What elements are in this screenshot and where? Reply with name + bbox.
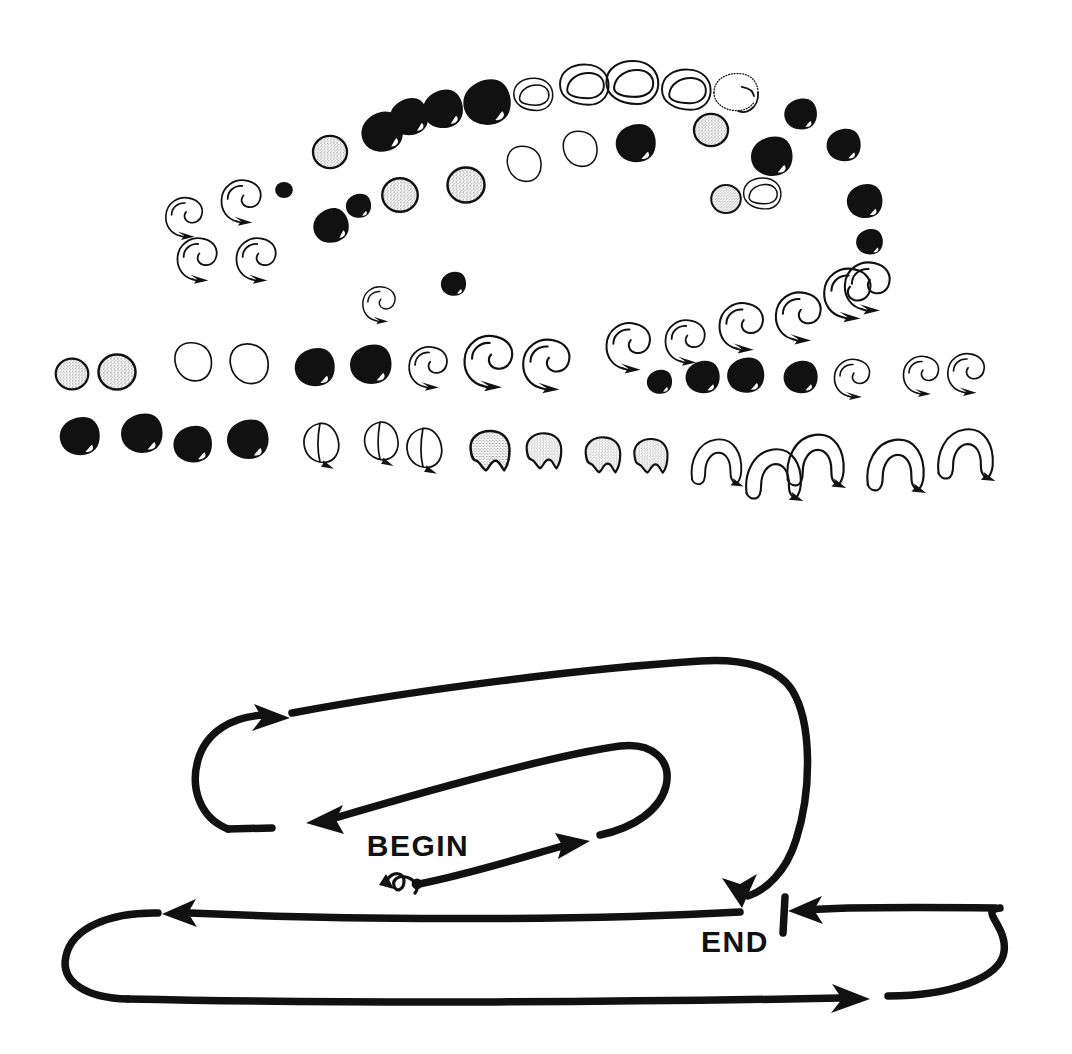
- glyph-solid: [346, 194, 371, 218]
- glyph-stipple-lobed: [586, 437, 621, 472]
- glyph-stipple: [711, 185, 741, 213]
- end-label: END: [701, 925, 769, 958]
- glyph-stipple: [448, 168, 485, 203]
- glyph-teardrop: [365, 422, 398, 466]
- glyph-solid: [616, 124, 656, 162]
- glyph-solid: [295, 348, 335, 386]
- glyph-row-3: [363, 272, 466, 324]
- glyph-solid: [847, 184, 883, 218]
- glyph-hook: [363, 287, 395, 324]
- glyph-arch: [938, 429, 995, 481]
- path-left-hairpin: [195, 704, 290, 829]
- glyph-hook: [166, 198, 202, 240]
- glyph-stipple-lobed: [527, 433, 562, 468]
- path-bottom-upper-run: [788, 896, 995, 924]
- glyph-solid: [461, 78, 512, 127]
- glyph-solid: [227, 419, 269, 459]
- path-bottom-long-left: [162, 899, 740, 927]
- glyph-solid: [751, 136, 793, 176]
- end-tick-mark: [783, 897, 785, 933]
- glyph-outline: [563, 131, 597, 166]
- glyph-row-5: [647, 354, 984, 400]
- glyph-teardrop: [304, 423, 339, 468]
- plate-canvas: BEGIN END: [0, 0, 1072, 1054]
- glyph-hook: [221, 180, 260, 226]
- glyph-hook: [834, 359, 869, 400]
- glyph-field: [56, 61, 996, 501]
- glyph-outline: [507, 146, 541, 181]
- glyph-solid: [121, 413, 163, 453]
- glyph-solid: [309, 205, 352, 247]
- glyph-solid: [784, 98, 817, 129]
- glyph-hook: [465, 336, 513, 391]
- glyph-solid: [784, 361, 818, 394]
- glyph-hook: [720, 303, 763, 353]
- glyph-stipple: [313, 136, 347, 168]
- begin-label: BEGIN: [367, 829, 470, 862]
- glyph-solid: [727, 357, 764, 392]
- glyph-hook: [776, 292, 821, 344]
- glyph-solid: [350, 344, 392, 384]
- glyph-crescent: [606, 61, 658, 104]
- glyph-stipple: [99, 355, 136, 390]
- glyph-solid: [173, 426, 212, 463]
- glyph-hook: [948, 354, 984, 396]
- glyph-stipple: [56, 359, 89, 390]
- glyph-solid: [647, 370, 672, 394]
- glyph-solid: [441, 272, 466, 296]
- glyph-row-6: [60, 413, 996, 501]
- glyph-hook: [903, 356, 938, 397]
- glyph-solid: [856, 229, 883, 254]
- glyph-solid: [60, 417, 100, 455]
- glyph-hook: [607, 323, 650, 373]
- glyph-crescent: [744, 178, 781, 209]
- glyph-hook: [523, 340, 569, 394]
- glyph-row-1: [166, 61, 890, 314]
- glyph-outline: [230, 344, 268, 384]
- glyph-solid: [827, 129, 861, 162]
- glyph-stipple: [694, 114, 728, 146]
- glyph-stipple-lobed: [471, 431, 510, 470]
- glyph-hook: [409, 347, 447, 391]
- path-bottom-left-uturn: [65, 913, 158, 999]
- glyph-outline: [175, 343, 212, 381]
- glyph-arch: [746, 449, 803, 501]
- glyph-hook: [665, 320, 704, 366]
- glyph-hook: [845, 262, 890, 314]
- reading-path-diagram: BEGIN END: [65, 660, 1004, 1013]
- path-bottom-right-uturn: [888, 908, 1004, 996]
- path-bottom-long-right: [128, 984, 870, 1013]
- glyph-crescent: [662, 70, 711, 110]
- glyph-stipple-lobed: [634, 439, 667, 473]
- glyph-solid: [686, 361, 720, 394]
- glyph-dot: [275, 182, 293, 198]
- glyph-hook: [236, 238, 275, 284]
- plate-svg: BEGIN END: [0, 0, 1072, 1054]
- glyph-stipple: [382, 178, 418, 212]
- glyph-crescent: [560, 65, 609, 105]
- path-inner-hairpin: [306, 745, 667, 835]
- glyph-crescent-dotted: [714, 74, 758, 112]
- glyph-hook: [177, 238, 216, 284]
- glyph-crescent: [514, 78, 553, 110]
- path-top-sweep: [292, 660, 808, 908]
- glyph-teardrop: [407, 428, 442, 473]
- glyph-arch: [867, 440, 926, 493]
- glyph-arch: [692, 439, 744, 486]
